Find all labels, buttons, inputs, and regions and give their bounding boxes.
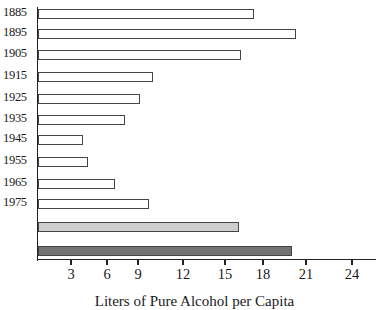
bar-1895	[38, 29, 296, 39]
bar-unlabeled-10	[38, 222, 239, 232]
y-label: 1915	[3, 69, 33, 82]
x-tick	[305, 260, 306, 265]
x-tick-label: 21	[291, 266, 321, 282]
y-label: 1925	[3, 91, 33, 104]
x-tick-label: 12	[168, 266, 198, 282]
x-tick	[351, 260, 352, 265]
x-tick	[70, 260, 71, 265]
x-tick-label: 15	[210, 266, 240, 282]
y-label: 1895	[3, 26, 33, 39]
x-axis-line	[37, 259, 376, 260]
bar-1965	[38, 179, 115, 189]
bar-1905	[38, 50, 241, 60]
y-label: 1945	[3, 132, 33, 145]
x-tick	[224, 260, 225, 265]
x-tick	[182, 260, 183, 265]
bar-1945	[38, 135, 83, 145]
bar-1885	[38, 9, 254, 19]
x-tick-label: 3	[56, 266, 86, 282]
x-tick	[137, 260, 138, 265]
y-label: 1965	[3, 176, 33, 189]
bar-1935	[38, 115, 125, 125]
x-tick-label: 18	[248, 266, 278, 282]
y-label: 1905	[3, 47, 33, 60]
x-axis-title: Liters of Pure Alcohol per Capita	[0, 292, 377, 310]
y-label: 1935	[3, 112, 33, 125]
x-tick-label: 24	[337, 266, 367, 282]
x-tick-label: 6	[92, 266, 122, 282]
bar-1975	[38, 199, 149, 209]
x-tick-label: 9	[123, 266, 153, 282]
x-tick	[262, 260, 263, 265]
y-label: 1975	[3, 196, 33, 209]
y-label: 1955	[3, 154, 33, 167]
bar-unlabeled-11	[38, 246, 292, 256]
x-tick	[106, 260, 107, 265]
y-label: 1885	[3, 6, 33, 19]
bar-1915	[38, 72, 153, 82]
bar-1955	[38, 157, 88, 167]
bar-1925	[38, 94, 140, 104]
